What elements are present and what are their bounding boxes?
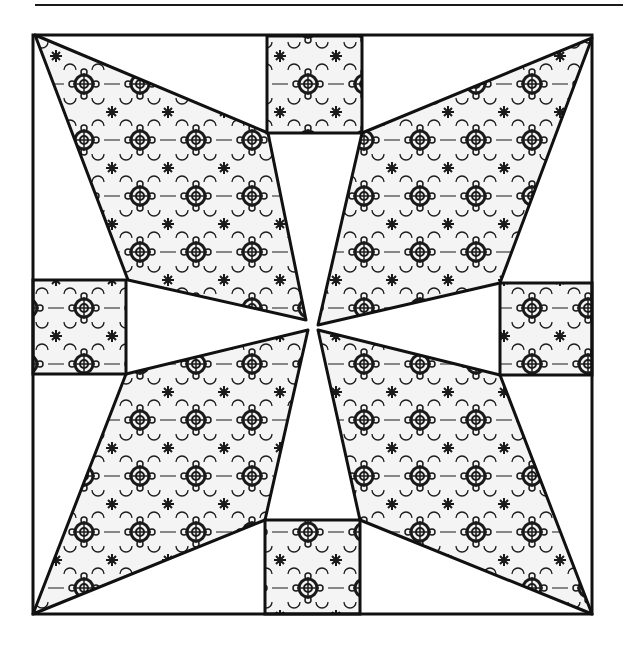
square-left — [33, 280, 126, 374]
square-top — [267, 36, 362, 133]
square-right — [500, 283, 592, 375]
square-bottom — [265, 520, 360, 614]
quilt-block — [0, 0, 623, 653]
